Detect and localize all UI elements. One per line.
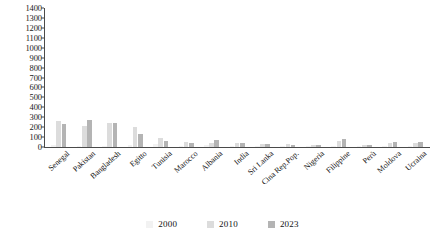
legend-item[interactable]: 2010 xyxy=(207,219,238,229)
x-tick-label: Marocco xyxy=(172,149,199,175)
bar xyxy=(179,146,184,147)
bar xyxy=(164,141,169,147)
bar xyxy=(265,144,270,147)
bar xyxy=(153,144,158,147)
y-tick-label: 1200 xyxy=(25,24,42,33)
bar xyxy=(382,146,387,147)
x-axis-category-labels: SenegalPakistanBangladeshEgittoTunisiaMa… xyxy=(46,149,428,207)
bar xyxy=(204,145,209,147)
bar xyxy=(128,145,133,147)
bar-group xyxy=(97,8,122,147)
y-axis-tick-labels: 0100200300400500600700800900100011001200… xyxy=(0,0,42,155)
x-tick-label: Perù xyxy=(360,149,377,166)
bar xyxy=(316,145,321,147)
x-tick-label: Ucraina xyxy=(403,149,428,173)
bar-group xyxy=(377,8,402,147)
bar xyxy=(337,141,342,147)
bar xyxy=(413,143,418,147)
bar-group xyxy=(352,8,377,147)
bar xyxy=(189,143,194,147)
x-tick-label: Nigeria xyxy=(303,149,327,172)
x-tick-label: Senegal xyxy=(47,149,72,173)
x-tick-label: Tunisia xyxy=(150,149,174,172)
bar xyxy=(158,138,163,147)
bar-group xyxy=(199,8,224,147)
y-tick-label: 1000 xyxy=(25,43,42,52)
bar xyxy=(133,127,138,147)
bar xyxy=(408,146,413,147)
bar xyxy=(393,142,398,147)
chart-legend: 200020102023 xyxy=(0,219,445,229)
bar xyxy=(418,142,423,147)
y-tick-label: 1100 xyxy=(26,34,42,43)
bar xyxy=(291,145,296,147)
bar xyxy=(367,145,372,147)
bar xyxy=(107,123,112,147)
bar xyxy=(286,144,291,147)
x-tick-label: India xyxy=(232,149,250,167)
x-tick-label: Filippine xyxy=(324,149,351,175)
bar xyxy=(138,134,143,147)
bar xyxy=(209,143,214,147)
bar xyxy=(214,140,219,147)
legend-label: 2000 xyxy=(158,219,177,229)
x-tick-label: Egitto xyxy=(128,149,149,169)
y-tick-label: 1300 xyxy=(25,14,42,23)
bar-group xyxy=(301,8,326,147)
bar xyxy=(51,145,56,147)
bar-group xyxy=(122,8,147,147)
bar xyxy=(113,123,118,147)
legend-swatch-icon xyxy=(146,221,153,228)
legend-label: 2023 xyxy=(280,219,299,229)
legend-item[interactable]: 2000 xyxy=(146,219,177,229)
bar xyxy=(102,146,107,147)
bar xyxy=(311,145,316,147)
bar xyxy=(240,143,245,147)
legend-item[interactable]: 2023 xyxy=(268,219,299,229)
bar xyxy=(342,139,347,147)
bar xyxy=(62,124,67,147)
bar xyxy=(255,146,260,147)
x-tick-label: Albania xyxy=(200,149,225,173)
bar-group xyxy=(71,8,96,147)
bar-groups xyxy=(46,8,428,147)
bar xyxy=(388,143,393,147)
bar-chart: 0100200300400500600700800900100011001200… xyxy=(0,0,445,247)
bar-group xyxy=(148,8,173,147)
legend-swatch-icon xyxy=(268,221,275,228)
x-tick-label: Moldova xyxy=(375,149,402,175)
bar xyxy=(362,145,367,147)
bar-group xyxy=(403,8,428,147)
bar xyxy=(56,121,61,147)
bar-group xyxy=(224,8,249,147)
bar xyxy=(331,146,336,147)
bar xyxy=(280,146,285,147)
bar-group xyxy=(46,8,71,147)
bar-group xyxy=(173,8,198,147)
bar xyxy=(230,146,235,147)
bar xyxy=(82,126,87,147)
legend-label: 2010 xyxy=(219,219,238,229)
y-axis-line xyxy=(44,8,45,147)
legend-swatch-icon xyxy=(207,221,214,228)
bar-group xyxy=(326,8,351,147)
bar xyxy=(87,120,92,147)
bar-group xyxy=(250,8,275,147)
y-tick-label: 1400 xyxy=(25,4,42,13)
bar xyxy=(77,146,82,147)
bar xyxy=(184,142,189,147)
bar xyxy=(357,146,362,147)
x-axis-line xyxy=(44,147,430,148)
bar xyxy=(235,143,240,147)
bar xyxy=(306,146,311,147)
bar xyxy=(260,144,265,147)
bar-group xyxy=(275,8,300,147)
